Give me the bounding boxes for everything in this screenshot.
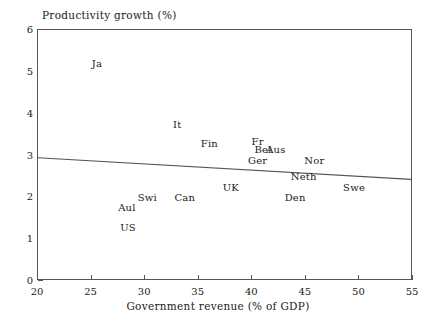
x-tick-mark	[91, 275, 92, 280]
x-tick-mark	[251, 275, 252, 280]
y-axis-tick-labels: 0123456	[5, 29, 33, 280]
plot-inner: JaItFinFrBelAusGerNorNethSweUKCanSwiDenA…	[38, 30, 411, 279]
y-tick-label: 1	[7, 233, 33, 244]
y-tick-mark	[38, 280, 43, 281]
x-tick-label: 25	[84, 286, 97, 297]
x-axis-tick-marks	[37, 274, 412, 280]
scatter-point-label: Ger	[248, 154, 267, 165]
chart-figure: Productivity growth (%) 0123456 JaItFinF…	[0, 0, 436, 322]
scatter-point-label: Ja	[92, 58, 102, 69]
y-tick-label: 5	[7, 65, 33, 76]
scatter-point-label: It	[173, 119, 181, 130]
x-tick-label: 35	[191, 286, 204, 297]
scatter-point-label: US	[120, 221, 136, 232]
x-tick-label: 50	[352, 286, 365, 297]
scatter-point-label: Neth	[291, 171, 317, 182]
x-tick-mark	[37, 275, 38, 280]
y-tick-label: 6	[7, 24, 33, 35]
y-tick-label: 0	[7, 275, 33, 286]
y-tick-label: 4	[7, 107, 33, 118]
x-tick-label: 30	[138, 286, 151, 297]
x-axis-tick-labels: 2025303540455055	[37, 283, 412, 299]
plot-area: JaItFinFrBelAusGerNorNethSweUKCanSwiDenA…	[37, 29, 412, 280]
y-axis-title: Productivity growth (%)	[42, 9, 177, 21]
x-tick-label: 55	[406, 286, 419, 297]
x-tick-mark	[305, 275, 306, 280]
scatter-point-label: Can	[174, 192, 195, 203]
x-tick-label: 40	[245, 286, 258, 297]
scatter-point-label: Aus	[266, 144, 285, 155]
scatter-point-label: Aul	[118, 201, 135, 212]
x-tick-mark	[144, 275, 145, 280]
scatter-point-label: UK	[223, 181, 239, 192]
x-tick-mark	[358, 275, 359, 280]
scatter-point-label: Den	[285, 192, 306, 203]
y-tick-label: 3	[7, 149, 33, 160]
x-tick-label: 20	[31, 286, 44, 297]
y-tick-label: 2	[7, 191, 33, 202]
scatter-point-label: Fin	[201, 137, 218, 148]
x-tick-label: 45	[298, 286, 311, 297]
scatter-point-label: Nor	[304, 154, 324, 165]
x-tick-mark	[198, 275, 199, 280]
x-tick-mark	[412, 275, 413, 280]
scatter-point-label: Swi	[138, 192, 157, 203]
scatter-point-label: Swe	[343, 181, 365, 192]
x-axis-title: Government revenue (% of GDP)	[0, 300, 436, 312]
